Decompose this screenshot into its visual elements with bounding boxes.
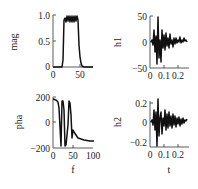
ytick-label: 1.0 [38,11,50,21]
ytick-label: 0 [142,118,147,128]
xtick-label: 0.2 [172,150,184,160]
panel-h2: h2 0.2 0 −0.2 0 0.1 0.2 t [112,99,189,175]
xtick-label: 0 [148,71,153,81]
ytick-label: 50 [138,12,148,22]
ylabel-h2: h2 [112,117,123,127]
panel-pha: pha 200 0 −200 0 50 100 f [13,93,100,175]
xlabel-f: f [71,164,75,175]
ytick-label: 0 [45,118,50,128]
xtick-label: 0.1 [158,71,170,81]
mag-series [53,16,93,67]
xlabel-t: t [168,164,171,175]
xtick-label: 100 [86,151,101,161]
ylabel-pha: pha [13,114,24,129]
xtick-label: 0 [51,151,56,161]
ytick-label: 0.5 [38,37,50,47]
y-axis [53,15,93,67]
ytick-label: 200 [36,93,51,103]
ylabel-h1: h1 [112,37,123,47]
h2-series [151,99,187,146]
ytick-label: 0 [45,62,50,72]
xtick-label: 0.2 [172,71,184,81]
panel-mag: mag 1.0 0.5 0 0 50 [8,11,93,80]
figure: mag 1.0 0.5 0 0 50 h1 50 0 −50 0 0.1 0.2… [0,0,198,189]
ytick-label: −0.2 [130,138,147,148]
ytick-label: −200 [30,144,50,154]
xtick-label: 50 [68,151,78,161]
ytick-label: −50 [132,64,147,74]
ytick-label: 0.2 [135,99,147,109]
xtick-label: 0 [51,70,56,80]
h1-series [151,17,187,64]
panel-h1: h1 50 0 −50 0 0.1 0.2 [112,12,189,81]
xtick-label: 50 [75,70,85,80]
ylabel-mag: mag [8,33,19,50]
ytick-label: 0 [142,38,147,48]
xtick-label: 0 [148,150,153,160]
xtick-label: 0.1 [158,150,170,160]
pha-series [53,99,94,146]
